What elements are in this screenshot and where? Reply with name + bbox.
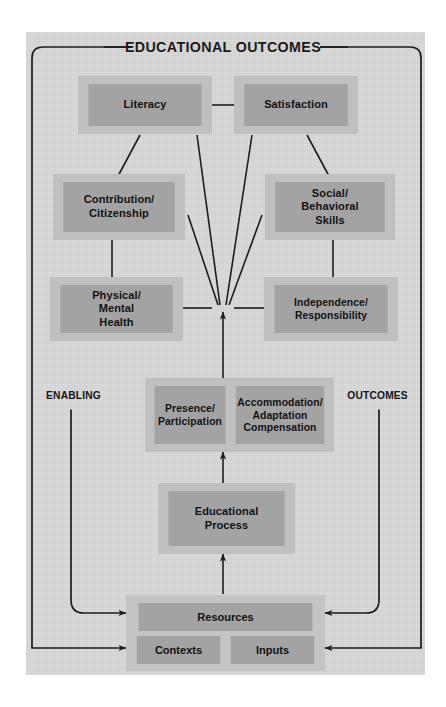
contribution-line-1: Contribution/ [84,193,155,205]
node-physical-mental-health[interactable]: Physical/ Mental Health [50,277,183,341]
node-contexts-label: Contexts [155,644,202,656]
diagram-title: EDUCATIONAL OUTCOMES [18,38,428,56]
educational-process-line-2: Process [205,519,249,531]
node-independence-responsibility-label: Independence/ Responsibility [274,285,387,333]
node-social-behavioral-skills[interactable]: Social/ Behavioral Skills [265,174,395,240]
rail-label-outcomes: OUTCOMES [347,389,408,401]
node-educational-process-label: Educational Process [168,491,284,546]
presence-line-1: Presence/ [165,402,215,414]
physical-line-1: Physical/ [92,289,141,301]
independence-line-1: Independence/ [294,296,368,308]
foundation-group: Resources Contexts Inputs [126,595,325,671]
node-resources-label: Resources [197,611,253,623]
node-independence-responsibility[interactable]: Independence/ Responsibility [264,277,398,341]
educational-process-line-1: Educational [195,505,259,517]
accommodation-line-2: Adaptation [252,409,307,421]
rail-label-enabling: ENABLING [46,389,101,401]
presence-line-2: Participation [158,415,222,427]
node-satisfaction-label: Satisfaction [244,84,348,126]
contribution-line-2: Citizenship [89,207,149,219]
node-educational-process[interactable]: Educational Process [158,483,295,554]
node-resources[interactable]: Resources [139,603,313,631]
node-social-behavioral-skills-label: Social/ Behavioral Skills [275,182,384,232]
node-accommodation-adaptation-compensation[interactable]: Accommodation/ Adaptation Compensation [226,378,334,452]
social-line-2: Behavioral [301,200,358,212]
physical-line-3: Health [99,316,133,328]
node-accommodation-adaptation-compensation-label: Accommodation/ Adaptation Compensation [236,386,324,444]
node-presence-participation[interactable]: Presence/ Participation [145,378,235,452]
node-contribution-citizenship-label: Contribution/ Citizenship [63,182,174,232]
node-presence-participation-label: Presence/ Participation [154,386,225,444]
node-inputs-label: Inputs [256,644,289,656]
social-line-1: Social/ [312,187,348,199]
node-literacy-label: Literacy [88,84,201,126]
independence-line-2: Responsibility [295,309,367,321]
node-contribution-citizenship[interactable]: Contribution/ Citizenship [53,174,185,240]
node-contexts[interactable]: Contexts [137,636,221,664]
node-satisfaction[interactable]: Satisfaction [234,76,358,134]
node-physical-mental-health-label: Physical/ Mental Health [60,285,172,333]
node-inputs[interactable]: Inputs [231,636,315,664]
accommodation-line-1: Accommodation/ [237,396,322,408]
social-line-3: Skills [315,214,344,226]
diagram-canvas: EDUCATIONAL OUTCOMES Literacy Satisfacti… [0,0,446,707]
physical-line-2: Mental [99,302,135,314]
node-literacy[interactable]: Literacy [78,76,212,134]
accommodation-line-3: Compensation [243,421,316,433]
